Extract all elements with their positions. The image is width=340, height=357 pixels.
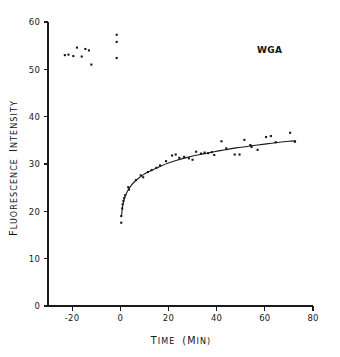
data-point-response — [120, 222, 122, 224]
annotation-label: WGA — [257, 45, 282, 55]
data-point-response — [195, 151, 197, 153]
y-tick-label: 30 — [29, 159, 40, 169]
y-tick-label: 50 — [29, 65, 40, 75]
data-point-response — [171, 154, 173, 156]
data-point-baseline — [116, 57, 118, 59]
plot-annotations: WGA — [257, 45, 282, 55]
y-tick-label: 60 — [29, 17, 40, 27]
x-tick-label: 80 — [307, 313, 318, 323]
data-point-baseline — [90, 64, 92, 66]
x-tick-label: 20 — [163, 313, 174, 323]
data-point-response — [142, 176, 144, 178]
y-tick-label: 40 — [29, 112, 40, 122]
data-point-response — [213, 154, 215, 156]
data-point-response — [165, 160, 167, 162]
data-point-response — [270, 135, 272, 137]
plot-axes — [48, 22, 313, 306]
x-tick-label: 0 — [117, 313, 123, 323]
y-tick-label: 10 — [29, 254, 40, 264]
data-point-response — [243, 139, 245, 141]
data-point-baseline — [116, 34, 118, 36]
data-point-response — [191, 159, 193, 161]
data-point-baseline — [116, 41, 118, 43]
y-axis-ticks: 0102030405060 — [29, 17, 48, 311]
data-point-response — [289, 132, 291, 134]
data-point-response — [178, 157, 180, 159]
data-point-response — [220, 140, 222, 142]
data-point-baseline — [81, 56, 83, 58]
series-response-points — [120, 132, 296, 224]
data-point-baseline — [67, 54, 69, 56]
data-point-response — [175, 153, 177, 155]
scatter-plot: -20020406080 0102030405060 WGA TIME(MIN)… — [0, 0, 340, 357]
data-point-response — [238, 153, 240, 155]
data-point-response — [257, 149, 259, 151]
x-tick-label: -20 — [65, 313, 79, 323]
data-point-response — [234, 153, 236, 155]
data-point-baseline — [88, 49, 90, 51]
data-point-response — [265, 136, 267, 138]
y-tick-label: 0 — [34, 301, 40, 311]
data-point-baseline — [84, 48, 86, 50]
x-tick-label: 60 — [259, 313, 270, 323]
data-point-baseline — [64, 54, 66, 56]
data-point-baseline — [76, 47, 78, 49]
chart-figure: -20020406080 0102030405060 WGA TIME(MIN)… — [0, 0, 340, 357]
series-baseline-points — [64, 34, 118, 66]
y-axis-title: FLUORESCENCEINTENSITY — [8, 100, 19, 236]
x-axis-title: TIME(MIN) — [150, 335, 212, 346]
x-axis-ticks: -20020406080 — [65, 306, 319, 323]
data-point-baseline — [72, 55, 74, 57]
x-tick-label: 40 — [211, 313, 222, 323]
y-tick-label: 20 — [29, 207, 40, 217]
